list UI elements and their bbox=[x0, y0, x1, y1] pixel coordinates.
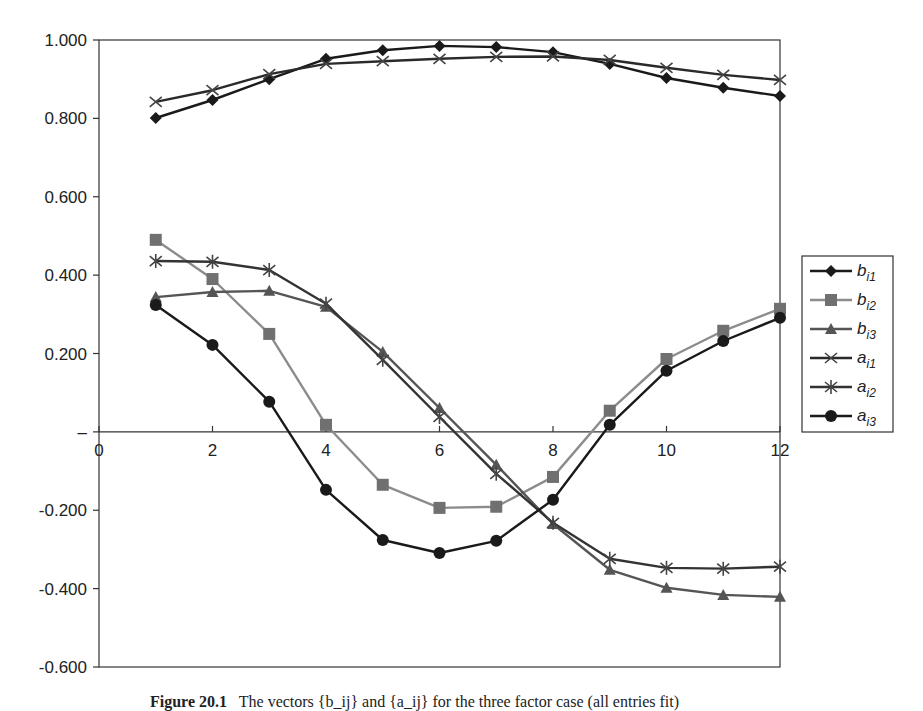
y-tick-label: 0.600 bbox=[44, 188, 87, 207]
square-marker-icon bbox=[825, 294, 837, 306]
y-tick-label: 0.400 bbox=[44, 266, 87, 285]
x-tick-label: 4 bbox=[321, 441, 330, 460]
circle-marker-icon bbox=[825, 410, 837, 422]
y-tick-label: 1.000 bbox=[44, 31, 87, 50]
legend: bi1bi2bi3ai1ai2ai3 bbox=[802, 256, 893, 432]
y-tick-label: 0.200 bbox=[44, 345, 87, 364]
diamond-marker-icon bbox=[774, 90, 786, 102]
y-axis: 1.0000.8000.6000.4000.200–-0.200-0.400-0… bbox=[39, 31, 99, 677]
x-tick-label: 8 bbox=[548, 441, 557, 460]
y-tick-label: -0.400 bbox=[39, 580, 87, 599]
series-line bbox=[156, 57, 780, 102]
x-axis: 024681012 bbox=[94, 426, 789, 460]
circle-marker-icon bbox=[320, 484, 332, 496]
square-marker-icon bbox=[377, 479, 389, 491]
caption-text: The vectors {b_ij} and {a_ij} for the th… bbox=[239, 693, 679, 710]
circle-marker-icon bbox=[377, 534, 389, 546]
x-tick-label: 6 bbox=[435, 441, 444, 460]
series-a-i1 bbox=[150, 51, 786, 106]
circle-marker-icon bbox=[661, 365, 673, 377]
square-marker-icon bbox=[661, 353, 673, 365]
circle-marker-icon bbox=[150, 299, 162, 311]
series-b-i2 bbox=[150, 234, 786, 514]
series-a-i3 bbox=[150, 299, 786, 559]
square-marker-icon bbox=[547, 471, 559, 483]
diamond-marker-icon bbox=[150, 112, 162, 124]
diamond-marker-icon bbox=[490, 41, 502, 53]
circle-marker-icon bbox=[604, 419, 616, 431]
x-tick-label: 2 bbox=[208, 441, 217, 460]
diamond-marker-icon bbox=[434, 40, 446, 52]
x-tick-label: 10 bbox=[657, 441, 676, 460]
square-marker-icon bbox=[434, 502, 446, 514]
x-tick-label: 0 bbox=[94, 441, 103, 460]
series-layer bbox=[150, 40, 786, 602]
circle-marker-icon bbox=[490, 535, 502, 547]
y-tick-label: 0.800 bbox=[44, 109, 87, 128]
diamond-marker-icon bbox=[717, 82, 729, 94]
circle-marker-icon bbox=[717, 335, 729, 347]
circle-marker-icon bbox=[207, 339, 219, 351]
diamond-marker-icon bbox=[661, 72, 673, 84]
y-tick-label: – bbox=[78, 423, 88, 442]
diamond-marker-icon bbox=[377, 44, 389, 56]
square-marker-icon bbox=[490, 501, 502, 513]
square-marker-icon bbox=[150, 234, 162, 246]
series-line bbox=[156, 240, 780, 508]
square-marker-icon bbox=[263, 328, 275, 340]
circle-marker-icon bbox=[434, 547, 446, 559]
circle-marker-icon bbox=[263, 396, 275, 408]
series-line bbox=[156, 305, 780, 553]
square-marker-icon bbox=[604, 405, 616, 417]
series-a-i2 bbox=[150, 254, 786, 576]
circle-marker-icon bbox=[774, 312, 786, 324]
y-tick-label: -0.200 bbox=[39, 501, 87, 520]
series-line bbox=[156, 261, 780, 569]
square-marker-icon bbox=[320, 419, 332, 431]
square-marker-icon bbox=[207, 273, 219, 285]
caption-label: Figure 20.1 bbox=[150, 693, 227, 710]
y-tick-label: -0.600 bbox=[39, 658, 87, 677]
x-tick-label: 12 bbox=[771, 441, 790, 460]
circle-marker-icon bbox=[547, 494, 559, 506]
series-b-i3 bbox=[150, 285, 786, 602]
diamond-marker-icon bbox=[207, 94, 219, 106]
figure-caption: Figure 20.1 The vectors {b_ij} and {a_ij… bbox=[150, 693, 679, 711]
legend-box bbox=[802, 256, 893, 432]
